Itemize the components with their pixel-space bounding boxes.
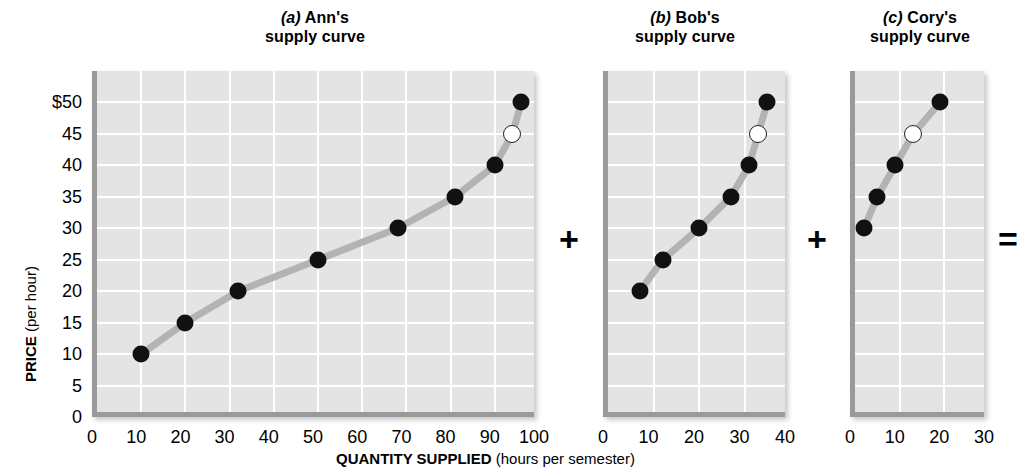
x-tick-label: 0 — [845, 427, 855, 448]
supply-curves-figure: (a) Ann's supply curve (b) Bob's supply … — [0, 0, 1027, 472]
y-tick-label: 5 — [72, 375, 82, 396]
panel-c-x-tick-labels: 0102030 — [0, 0, 1027, 472]
y-tick-label: 10 — [62, 344, 82, 365]
x-tick-label: 30 — [974, 427, 994, 448]
y-tick-label: $50 — [52, 92, 82, 113]
y-tick-label: 40 — [62, 155, 82, 176]
y-tick-label: 45 — [62, 123, 82, 144]
y-tick-label: 20 — [62, 281, 82, 302]
y-tick-label: 0 — [72, 407, 82, 428]
equals-operator: = — [998, 222, 1018, 256]
y-tick-label: 25 — [62, 249, 82, 270]
x-axis-title-bold: QUANTITY SUPPLIED — [336, 450, 492, 467]
x-tick-label: 20 — [929, 427, 949, 448]
x-axis-title-unit: (hours per semester) — [492, 450, 635, 467]
y-tick-label: 35 — [62, 186, 82, 207]
x-tick-label: 10 — [885, 427, 905, 448]
x-axis-title: QUANTITY SUPPLIED (hours per semester) — [336, 450, 635, 467]
y-tick-label: 30 — [62, 218, 82, 239]
y-tick-label: 15 — [62, 312, 82, 333]
